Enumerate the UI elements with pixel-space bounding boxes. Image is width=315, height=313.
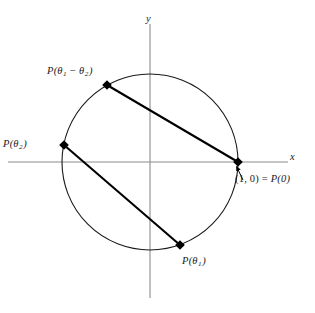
label-p-zero: P(0) [271,173,290,184]
label-p-theta1-minus-theta2-greek1: θ [57,65,62,76]
label-point-one-zero-equals-p-zero: (1, 0) = P(0) [235,174,290,185]
chord-p-theta2-to-p-theta1 [64,145,180,245]
label-p-theta1-prefix: P [182,255,189,266]
label-p-theta2-close: ) [23,138,27,149]
label-p-theta1-minus-theta2-prefix: P [47,65,54,76]
label-p-theta1-minus-theta2-minus: − [70,65,76,76]
label-p-theta2: P(θ2) [3,139,27,151]
label-p-theta1-minus-theta2-sub1: 1 [63,70,68,78]
unit-circle-diagram: P(θ1 − θ2) P(θ2) P(θ1) (1, 0) = P(0) x y [0,0,315,313]
diagram-canvas [0,0,315,313]
label-p-theta1-minus-theta2: P(θ1 − θ2) [47,66,93,78]
label-coordinate-pair: (1, 0) [235,173,259,184]
point-p-theta1-minus-theta2 [102,80,112,90]
y-axis-label: y [146,14,151,25]
label-p-theta2-prefix: P [3,138,10,149]
label-p-theta1-close: ) [202,255,206,266]
x-axis-label: x [290,152,295,163]
label-p-theta1-greek: θ [192,255,197,266]
label-p-theta1-minus-theta2-close: ) [89,65,93,76]
chord-p0-to-p-theta1-minus-theta2 [107,85,238,162]
label-p-theta2-greek: θ [13,138,18,149]
point-p0 [233,157,243,167]
label-p-theta1: P(θ1) [182,256,206,268]
label-equals-sign: = [262,173,268,184]
